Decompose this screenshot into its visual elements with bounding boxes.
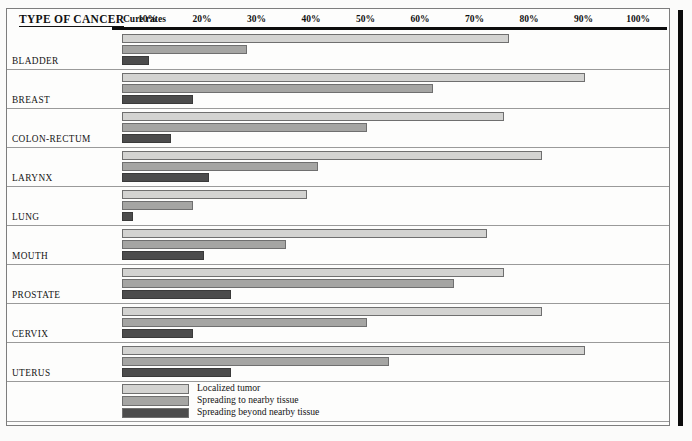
cancer-row-label: COLON-RECTUM [12,134,91,144]
bar-localized [122,151,542,160]
bar-nearby [122,279,454,288]
bar-beyond [122,329,193,338]
axis-tick-label: 100% [626,14,650,24]
bar-nearby [122,123,367,132]
axis-tick-label: 80% [520,14,539,24]
bar-track [122,265,661,303]
axis-tick-label: 30% [247,14,266,24]
bar-beyond [122,173,209,182]
cancer-row: COLON-RECTUM [7,109,669,148]
bar-track [122,70,661,108]
legend-label-nearby: Spreading to nearby tissue [197,394,299,405]
bar-track [122,109,661,147]
bar-localized [122,112,504,121]
cancer-row: BREAST [7,70,669,109]
bar-nearby [122,318,367,327]
legend-label-localized: Localized tumor [197,382,260,393]
bar-localized [122,346,585,355]
legend-label-beyond: Spreading beyond nearby tissue [197,406,319,417]
bar-nearby [122,84,433,93]
right-edge-rule [678,10,683,426]
axis-tick-label: 60% [411,14,430,24]
cancer-row-label: LARYNX [12,173,53,183]
page-title: TYPE OF CANCER [19,13,124,27]
axis-tick-label: 70% [465,14,484,24]
axis-tick-label: 90% [574,14,593,24]
bar-nearby [122,162,318,171]
axis-tick-label: 40% [302,14,321,24]
bar-track [122,31,661,69]
bar-track [122,343,661,381]
legend-swatch-localized [122,384,189,394]
cancer-row-label: BLADDER [12,56,59,66]
bar-nearby [122,201,193,210]
cancer-row-label: LUNG [12,212,39,222]
bar-localized [122,73,585,82]
cancer-row: UTERUS [7,343,669,382]
bar-beyond [122,95,193,104]
cancer-row-label: BREAST [12,95,50,105]
bar-track [122,226,661,264]
bar-beyond [122,212,133,221]
legend-rule [7,421,669,422]
bar-beyond [122,290,231,299]
cancer-row: LARYNX [7,148,669,187]
legend-swatch-beyond [122,408,189,418]
bar-localized [122,34,509,43]
bar-localized [122,190,307,199]
bar-localized [122,268,504,277]
cancer-row: PROSTATE [7,265,669,304]
bar-track [122,304,661,342]
bar-nearby [122,240,286,249]
bar-beyond [122,251,204,260]
bar-beyond [122,368,231,377]
cancer-row-label: PROSTATE [12,290,60,300]
cancer-row-label: CERVIX [12,329,48,339]
bar-nearby [122,357,389,366]
bar-track [122,187,661,225]
cancer-row-label: MOUTH [12,251,48,261]
cancer-row: LUNG [7,187,669,226]
cancer-row: MOUTH [7,226,669,265]
axis-tick-label: 10% [138,14,157,24]
chart-page: TYPE OF CANCER Cure rates 10%20%30%40%50… [0,0,692,441]
chart-legend: Localized tumor Spreading to nearby tiss… [7,383,669,425]
axis-tick-label: 20% [193,14,212,24]
bar-beyond [122,134,171,143]
cancer-row: CERVIX [7,304,669,343]
chart-plot-area: BLADDERBREASTCOLON-RECTUMLARYNXLUNGMOUTH… [7,31,669,383]
axis-tick-label: 50% [356,14,375,24]
legend-swatch-nearby [122,396,189,406]
bar-beyond [122,56,149,65]
bar-nearby [122,45,247,54]
bar-localized [122,307,542,316]
cancer-row-label: UTERUS [12,368,51,378]
header-rule [112,27,667,30]
bar-track [122,148,661,186]
cancer-row: BLADDER [7,31,669,70]
bar-localized [122,229,487,238]
